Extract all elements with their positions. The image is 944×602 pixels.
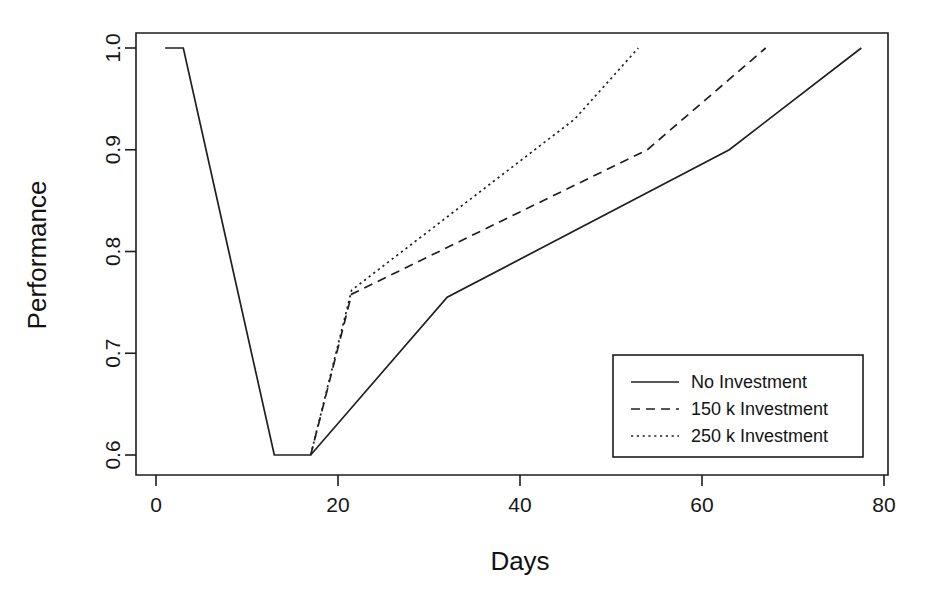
chart-background: [0, 0, 944, 602]
y-tick-label: 0.6: [101, 440, 124, 469]
y-tick-label: 0.7: [101, 339, 124, 368]
chart-figure: 0.60.70.80.91.0 020406080 Performance Da…: [0, 0, 944, 602]
performance-vs-days-line-chart: 0.60.70.80.91.0 020406080 Performance Da…: [0, 0, 944, 602]
y-tick-label: 1.0: [101, 33, 124, 62]
x-tick-label: 20: [326, 493, 349, 516]
y-tick-label: 0.8: [101, 237, 124, 266]
y-tick-label: 0.9: [101, 135, 124, 164]
x-axis-title: Days: [490, 546, 549, 576]
y-axis-title: Performance: [22, 181, 52, 330]
legend-label: 150 k Investment: [691, 399, 828, 419]
x-tick-label: 60: [690, 493, 713, 516]
x-tick-label: 80: [872, 493, 895, 516]
legend-label: 250 k Investment: [691, 426, 828, 446]
x-tick-label: 40: [508, 493, 531, 516]
x-tick-label: 0: [150, 493, 162, 516]
chart-legend: No Investment150 k Investment250 k Inves…: [613, 355, 863, 457]
legend-label: No Investment: [691, 372, 807, 392]
